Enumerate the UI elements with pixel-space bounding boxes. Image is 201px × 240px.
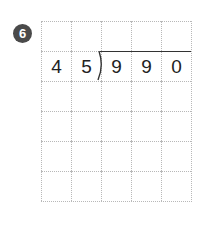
divisor-digit: 4	[41, 51, 71, 81]
dividend-digit: 9	[131, 51, 161, 81]
grid-cell[interactable]	[41, 21, 71, 51]
grid-cell[interactable]	[101, 171, 131, 201]
grid-cell[interactable]	[71, 21, 101, 51]
grid-cell[interactable]	[71, 81, 101, 111]
grid-cell[interactable]	[131, 141, 161, 171]
grid-cell[interactable]	[71, 171, 101, 201]
grid-cell[interactable]	[131, 111, 161, 141]
grid-cell[interactable]	[131, 21, 161, 51]
grid-cell[interactable]	[161, 111, 191, 141]
grid-cell[interactable]	[101, 111, 131, 141]
grid-cell[interactable]	[101, 141, 131, 171]
grid-cell[interactable]	[71, 111, 101, 141]
grid-cell[interactable]	[101, 81, 131, 111]
grid-cell[interactable]	[41, 141, 71, 171]
grid-cell[interactable]	[101, 21, 131, 51]
grid-cell[interactable]	[161, 171, 191, 201]
grid-cell[interactable]	[161, 21, 191, 51]
grid-cell[interactable]	[161, 141, 191, 171]
grid-cell[interactable]	[161, 81, 191, 111]
grid-cell[interactable]	[41, 171, 71, 201]
problem-number-badge: 6	[13, 24, 32, 43]
division-bracket-icon	[94, 51, 104, 81]
grid-cell[interactable]	[131, 81, 161, 111]
grid-cell[interactable]	[41, 81, 71, 111]
grid-cell[interactable]	[131, 171, 161, 201]
long-division-grid: 4 5 9 9 0	[41, 21, 192, 202]
dividend-digit: 0	[161, 51, 191, 81]
grid-cell[interactable]	[71, 141, 101, 171]
division-bar	[100, 51, 191, 52]
dividend-digit: 9	[101, 51, 131, 81]
grid-cell[interactable]	[41, 111, 71, 141]
